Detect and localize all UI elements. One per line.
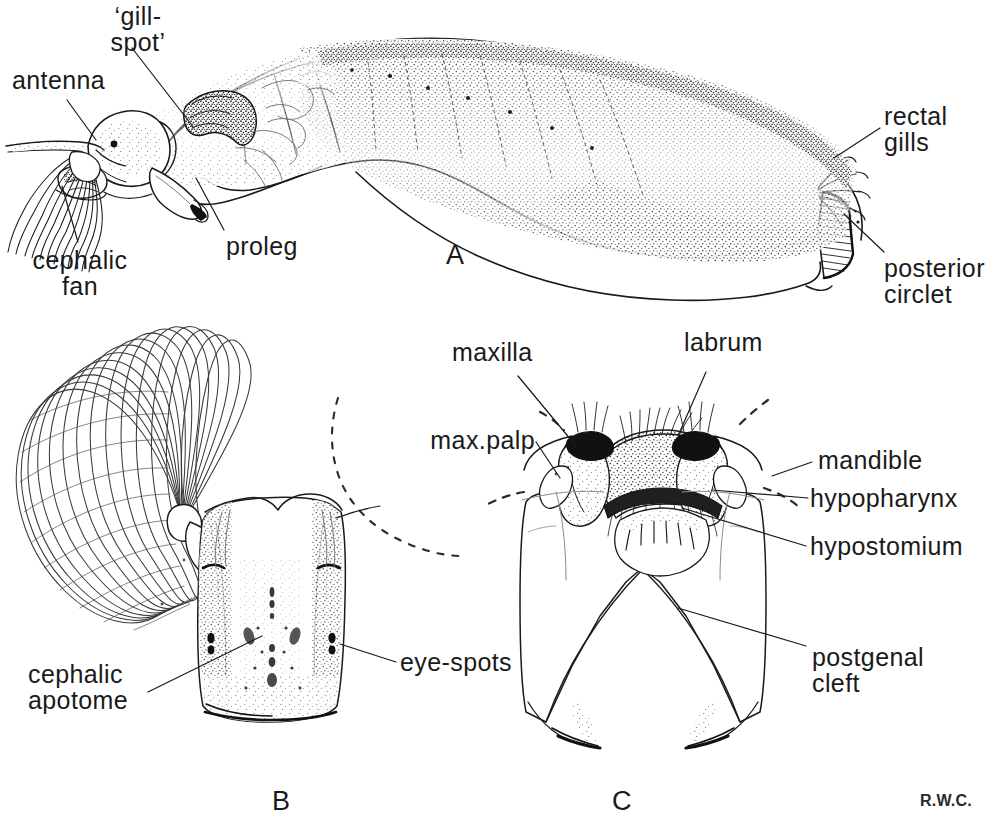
label-maxilla: maxilla [452, 340, 533, 366]
label-hypostomium: hypostomium [810, 534, 963, 560]
illustration-canvas [0, 0, 991, 820]
antenna-dashed-b [332, 398, 462, 556]
figure-plate: ‘gill- spot’ antenna cephalic fan proleg… [0, 0, 991, 820]
label-cephalic-apotome: cephalic apotome [28, 662, 128, 713]
panel-a-larva [6, 38, 884, 300]
panel-letter-a: A [446, 240, 465, 271]
label-posterior-circlet: posterior circlet [884, 256, 985, 307]
label-eye-spots: eye-spots [400, 650, 512, 676]
label-rectal-gills: rectal gills [884, 104, 948, 155]
label-labrum: labrum [684, 330, 763, 356]
panel-letter-c: C [612, 786, 632, 817]
panel-c-head-ventral [488, 372, 812, 748]
label-cephalic-fan: cephalic fan [33, 248, 128, 299]
panel-letter-b: B [272, 786, 291, 817]
label-max-palp: max.palp [430, 428, 535, 454]
artist-signature: R.W.C. [920, 792, 972, 810]
label-mandible: mandible [818, 448, 923, 474]
label-antenna: antenna [12, 68, 105, 94]
label-gill-spot: ‘gill- spot’ [111, 4, 166, 55]
label-postgenal-cleft: postgenal cleft [812, 645, 924, 696]
label-proleg: proleg [226, 234, 298, 260]
label-hypopharynx: hypopharynx [810, 486, 958, 512]
